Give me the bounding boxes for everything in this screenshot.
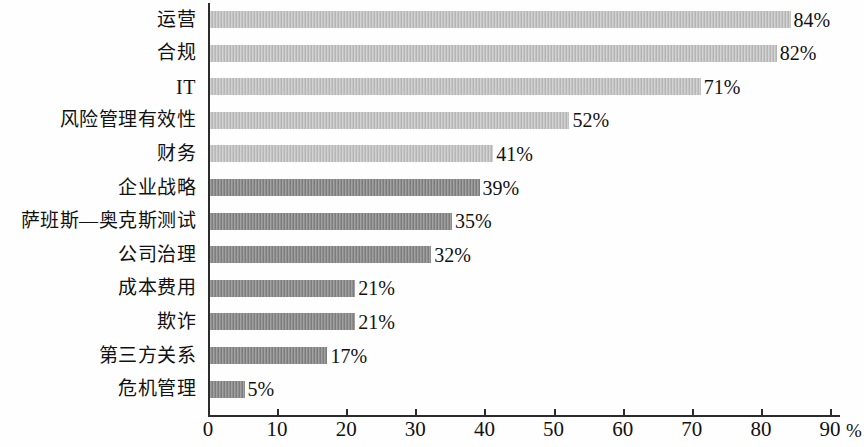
x-axis-tick-label: 80	[750, 419, 771, 440]
x-axis-tick-label: 40	[474, 419, 495, 440]
bar	[210, 381, 245, 398]
x-axis-unit-label: %	[846, 421, 862, 440]
x-axis-tick	[484, 409, 486, 416]
category-label: 欺诈	[157, 312, 196, 331]
category-label: 合规	[157, 43, 196, 62]
x-axis-tick-label: 60	[612, 419, 633, 440]
bar	[210, 145, 493, 162]
x-axis-tick-label: 50	[543, 419, 564, 440]
x-axis-tick	[623, 409, 625, 416]
x-axis-tick-label: 90	[820, 419, 841, 440]
bar	[210, 213, 452, 230]
bar-value-label: 21%	[358, 312, 395, 332]
x-axis-tick	[415, 409, 417, 416]
category-label: 成本费用	[118, 278, 196, 297]
category-label: 危机管理	[118, 379, 196, 398]
x-axis-tick	[692, 409, 694, 416]
bar-value-label: 41%	[496, 144, 533, 164]
bar	[210, 11, 791, 28]
x-axis-tick	[346, 409, 348, 416]
x-axis-tick	[208, 409, 210, 416]
category-label: 运营	[157, 10, 196, 29]
bar-chart: 运营合规IT风险管理有效性财务企业战略萨班斯—奥克斯测试公司治理成本费用欺诈第三…	[0, 0, 864, 447]
category-label: 风险管理有效性	[60, 110, 197, 129]
bar-value-label: 39%	[483, 178, 520, 198]
bar	[210, 347, 327, 364]
bar	[210, 112, 569, 129]
x-axis-line	[208, 415, 840, 417]
bar	[210, 280, 355, 297]
x-axis-tick	[761, 409, 763, 416]
bar	[210, 313, 355, 330]
category-label: 企业战略	[118, 178, 196, 197]
category-label: 第三方关系	[99, 346, 197, 365]
plot-area: 0102030405060708090 84%82%71%52%41%39%35…	[208, 0, 864, 447]
bar	[210, 45, 777, 62]
bar-value-label: 21%	[358, 278, 395, 298]
bar-value-label: 5%	[248, 379, 275, 399]
x-axis-tick	[277, 409, 279, 416]
bar-value-label: 71%	[704, 77, 741, 97]
category-label: 财务	[157, 144, 196, 163]
bar-value-label: 35%	[455, 211, 492, 231]
bar-value-label: 52%	[572, 110, 609, 130]
bar-value-label: 32%	[434, 245, 471, 265]
bar-value-label: 84%	[794, 10, 831, 30]
x-axis-tick-label: 10	[267, 419, 288, 440]
bar	[210, 179, 480, 196]
bar	[210, 78, 701, 95]
bar	[210, 246, 431, 263]
category-axis-labels: 运营合规IT风险管理有效性财务企业战略萨班斯—奥克斯测试公司治理成本费用欺诈第三…	[0, 0, 200, 420]
x-axis-tick-label: 70	[681, 419, 702, 440]
x-axis-tick	[830, 409, 832, 416]
category-label: IT	[176, 77, 196, 97]
category-label: 公司治理	[118, 245, 196, 264]
bar-value-label: 82%	[780, 43, 817, 63]
x-axis-tick-label: 20	[336, 419, 357, 440]
bar-value-label: 17%	[330, 346, 367, 366]
x-axis-tick-label: 0	[203, 419, 214, 440]
x-axis-tick	[554, 409, 556, 416]
x-axis-tick-label: 30	[405, 419, 426, 440]
category-label: 萨班斯—奥克斯测试	[21, 211, 197, 230]
